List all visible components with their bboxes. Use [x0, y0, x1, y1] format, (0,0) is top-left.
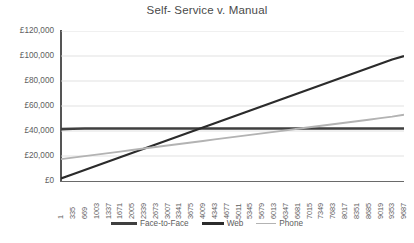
legend-swatch-phone-icon [256, 223, 276, 225]
legend-item-web[interactable]: Web [202, 219, 244, 228]
x-axis-tick-label: 5011 [235, 204, 242, 220]
x-axis-tick-labels: 1335669100313371671200523392673300733413… [61, 183, 404, 219]
legend-swatch-face-to-face-icon [111, 222, 137, 225]
x-axis-tick-label: 2005 [128, 203, 135, 219]
plot-svg [61, 31, 404, 181]
x-axis-tick-label: 9353 [388, 203, 395, 219]
x-axis-tick-label: 8017 [341, 203, 348, 219]
y-axis-tick-label: £40,000 [24, 127, 54, 135]
x-axis-tick-label: 4343 [211, 203, 218, 219]
series-line-face-to-face [61, 129, 404, 130]
y-axis-tick-label: £60,000 [24, 102, 54, 110]
y-axis-tick-label: £100,000 [20, 52, 54, 60]
x-axis-tick-label: 6013 [270, 203, 277, 219]
x-axis-tick-label: 2339 [140, 203, 147, 219]
x-axis-tick-label: 7683 [329, 203, 336, 219]
series-line-web [61, 56, 404, 179]
legend-item-face-to-face[interactable]: Face-to-Face [111, 219, 189, 228]
legend-label-phone: Phone [279, 219, 303, 228]
x-axis-tick-label: 9687 [400, 203, 407, 219]
x-axis-tick-label: 3007 [164, 203, 171, 219]
x-axis-tick-label: 1337 [105, 203, 112, 219]
x-axis-tick-label: 8685 [365, 203, 372, 219]
x-axis-tick-label: 3341 [175, 203, 182, 219]
y-axis-tick-labels: £120,000£100,000£80,000£60,000£40,000£20… [0, 0, 58, 243]
series-line-phone [61, 115, 404, 159]
x-axis-tick-label: 7015 [306, 203, 313, 219]
x-axis-tick-label: 335 [69, 207, 76, 219]
x-axis-tick-label: 5345 [246, 203, 253, 219]
chart-title: Self- Service v. Manual [0, 4, 414, 16]
y-axis-tick-label: £80,000 [24, 77, 54, 85]
plot-area [61, 31, 404, 181]
series-lines [61, 56, 404, 179]
x-axis-tick-label: 5679 [258, 203, 265, 219]
x-axis-tick-label: 6347 [282, 203, 289, 219]
y-axis-tick-label: £120,000 [20, 27, 54, 35]
legend-swatch-web-icon [202, 222, 224, 224]
legend-label-web: Web [227, 219, 244, 228]
x-axis-tick-label: 6681 [294, 203, 301, 219]
x-axis-tick-label: 3675 [187, 203, 194, 219]
x-axis-tick-label: 1671 [116, 203, 123, 219]
x-axis-tick-label: 9019 [377, 203, 384, 219]
x-axis-tick-label: 8351 [353, 203, 360, 219]
chart-legend: Face-to-Face Web Phone [0, 219, 414, 228]
line-chart: Self- Service v. Manual £120,000£100,000… [0, 0, 414, 243]
legend-label-face-to-face: Face-to-Face [140, 219, 189, 228]
x-axis-tick-label: 4677 [223, 203, 230, 219]
x-axis-tick-label: 669 [81, 207, 88, 219]
y-axis-tick-label: £20,000 [24, 152, 54, 160]
x-axis-tick-label: 2673 [152, 203, 159, 219]
y-axis-tick-label: £0 [45, 177, 54, 185]
x-axis-tick-label: 4009 [199, 203, 206, 219]
x-axis-tick-label: 7349 [317, 203, 324, 219]
x-axis-tick-label: 1003 [93, 203, 100, 219]
legend-item-phone[interactable]: Phone [256, 219, 303, 228]
